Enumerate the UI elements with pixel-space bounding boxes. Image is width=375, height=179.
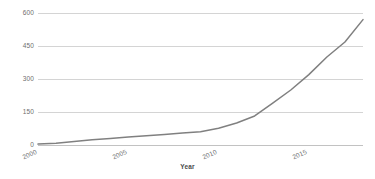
series-polyline [38,20,363,145]
y-axis-tick-label: 300 [4,75,34,82]
x-axis-tick-label: 2005 [111,148,127,160]
line-chart: 600 450 300 150 0 2000 2005 2010 2015 Ye… [0,0,375,179]
plot-area [38,13,363,145]
x-axis-tick-label: 2010 [201,148,217,160]
series-line [38,13,363,145]
y-axis-tick-label: 150 [4,108,34,115]
y-axis-tick-label: 450 [4,42,34,49]
x-axis-title: Year [0,163,375,170]
x-axis-tick-label: 2000 [21,148,37,160]
gridline-0-axis [38,145,363,146]
x-axis-tick-label: 2015 [291,148,307,160]
y-axis-tick-label: 0 [4,141,34,148]
y-axis-tick-label: 600 [4,9,34,16]
